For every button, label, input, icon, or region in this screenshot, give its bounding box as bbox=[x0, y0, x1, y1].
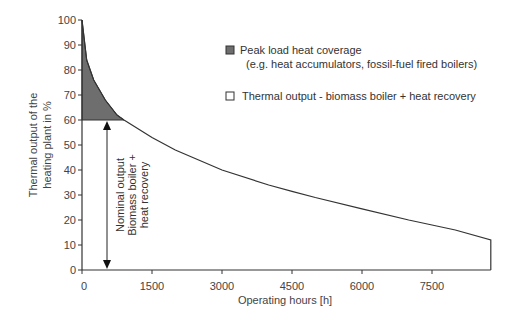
y-tick-label: 100 bbox=[58, 14, 76, 26]
legend-swatch-thermal bbox=[226, 92, 234, 100]
x-tick-label: 6000 bbox=[350, 280, 374, 292]
chart-legend: Peak load heat coverage (e.g. heat accum… bbox=[226, 44, 477, 102]
load-duration-chart: 0102030405060708090100 01500300045006000… bbox=[0, 0, 513, 326]
y-axis-label-line-2: heating plant in % bbox=[41, 101, 53, 189]
y-tick-label: 10 bbox=[64, 239, 76, 251]
x-tick-label: 0 bbox=[81, 280, 87, 292]
x-tick-label: 3000 bbox=[210, 280, 234, 292]
y-tick-label: 30 bbox=[64, 189, 76, 201]
x-tick-label: 7500 bbox=[420, 280, 444, 292]
legend-sublabel-peak: (e.g. heat accumulators, fossil-fuel fir… bbox=[246, 58, 477, 70]
nominal-output-arrow bbox=[103, 121, 111, 269]
legend-swatch-peak bbox=[226, 46, 234, 54]
y-axis-label-line-1: Thermal output of the bbox=[27, 93, 39, 198]
y-tick-label: 50 bbox=[64, 139, 76, 151]
legend-label-thermal: Thermal output - biomass boiler + heat r… bbox=[242, 90, 476, 102]
annotation-line-3: heat recovery bbox=[138, 161, 150, 228]
y-axis-label: Thermal output of the heating plant in % bbox=[27, 93, 53, 198]
annotation-line-1: Nominal output bbox=[114, 158, 126, 232]
x-tick-label: 4500 bbox=[280, 280, 304, 292]
x-axis-ticks: 015003000450060007500 bbox=[81, 270, 444, 292]
legend-label-peak: Peak load heat coverage bbox=[240, 44, 362, 56]
nominal-output-annotation: Nominal output Biomass boiler + heat rec… bbox=[114, 154, 150, 236]
y-tick-label: 40 bbox=[64, 164, 76, 176]
y-axis-ticks: 0102030405060708090100 bbox=[58, 14, 82, 276]
peak-load-shaded-area bbox=[82, 20, 124, 120]
annotation-line-2: Biomass boiler + bbox=[126, 154, 138, 236]
x-tick-label: 1500 bbox=[140, 280, 164, 292]
y-tick-label: 70 bbox=[64, 89, 76, 101]
y-tick-label: 60 bbox=[64, 114, 76, 126]
y-tick-label: 20 bbox=[64, 214, 76, 226]
y-tick-label: 0 bbox=[70, 264, 76, 276]
y-tick-label: 90 bbox=[64, 39, 76, 51]
y-tick-label: 80 bbox=[64, 64, 76, 76]
x-axis-label: Operating hours [h] bbox=[238, 294, 332, 306]
